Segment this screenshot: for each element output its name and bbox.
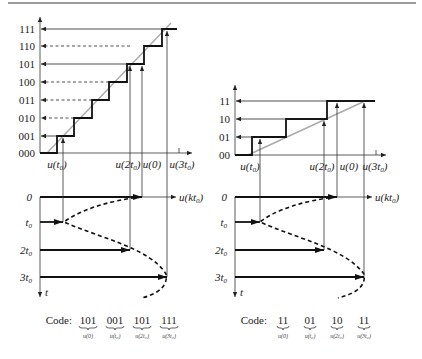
left-x-label: u(t0) (47, 158, 67, 172)
right-code-label: Code: (241, 314, 267, 326)
right-level-label: 10 (219, 113, 231, 125)
left-code-sample-label: u(t₀) (110, 333, 121, 340)
left-time-label: 3t0 (19, 271, 33, 285)
left-underbrace (133, 326, 151, 330)
left-level-label: 100 (19, 76, 36, 88)
left-time-label: t0 (25, 216, 32, 230)
right-code-value: 11 (278, 314, 289, 326)
right-code-sample-label: u(2t₀) (330, 333, 344, 340)
left-code-value: 101 (134, 314, 151, 326)
quantization-diagram: 000001010011100101110111 u(t0)u(2t0)u(0)… (0, 0, 422, 359)
left-level-label: 101 (19, 58, 36, 70)
left-underbrace (79, 326, 97, 330)
left-code-value: 101 (80, 314, 97, 326)
left-level-label: 110 (19, 40, 36, 52)
left-t-axis-label: t (45, 286, 49, 298)
left-level-label: 010 (19, 112, 36, 124)
right-level-label: 01 (219, 131, 230, 143)
left-code-sample-label: u(0) (83, 333, 93, 340)
right-time-plot: 0t02t03t0tu(kt0) (214, 191, 400, 298)
right-diagram-2bit: 00011011 u(t0)u(2t0)u(0)u(3t0) 0t02t03t0… (214, 85, 400, 340)
left-level-label: 011 (19, 94, 35, 106)
left-code-value: 111 (161, 314, 177, 326)
left-level-label: 111 (19, 23, 35, 35)
left-code-label: Code: (46, 314, 72, 326)
right-time-label: 0 (222, 191, 228, 203)
left-code-value: 001 (107, 314, 124, 326)
right-code-value: 11 (359, 314, 370, 326)
right-t-axis-label: t (240, 286, 244, 298)
left-x-label: u(2t0) (116, 158, 141, 172)
right-x-label: u(3t0) (363, 160, 388, 174)
left-level-label: 000 (19, 147, 36, 159)
right-level-label: 11 (219, 95, 230, 107)
right-underbrace (331, 326, 343, 330)
left-level-label: 001 (19, 130, 36, 142)
left-x-label: u(3t0) (170, 158, 195, 172)
right-code-sample-label: u(t₀) (305, 333, 316, 340)
right-x-label: u(0) (340, 160, 359, 173)
left-u-axis-label: u(kt0) (179, 191, 204, 205)
right-u-axis-label: u(kt0) (375, 191, 400, 205)
right-time-label: 2t0 (215, 244, 228, 258)
right-code-value: 01 (305, 314, 316, 326)
right-x-label: u(2t0) (310, 160, 335, 174)
right-code-value: 10 (332, 314, 344, 326)
left-time-plot: 0t02t03t0tu(kt0) (19, 191, 204, 298)
left-underbrace (106, 326, 124, 330)
left-time-label: 2t0 (20, 244, 33, 258)
right-underbrace (304, 326, 316, 330)
left-time-label: 0 (27, 191, 33, 203)
left-code-sample-label: u(2t₀) (135, 333, 149, 340)
left-staircase (40, 29, 177, 153)
right-level-label: 00 (219, 149, 231, 161)
left-x-label: u(0) (143, 158, 162, 171)
left-transfer-plot: 000001010011100101110111 u(t0)u(2t0)u(0)… (19, 17, 195, 172)
right-transfer-plot: 00011011 u(t0)u(2t0)u(0)u(3t0) (219, 85, 388, 174)
right-time-label: t0 (220, 216, 227, 230)
right-code-sample-label: u(3t₀) (357, 333, 371, 340)
right-underbrace (277, 326, 289, 330)
left-diagram-3bit: 000001010011100101110111 u(t0)u(2t0)u(0)… (19, 17, 204, 340)
right-code-sample-label: u(0) (278, 333, 288, 340)
right-x-label: u(t0) (240, 160, 260, 174)
left-underbrace (160, 326, 178, 330)
right-underbrace (358, 326, 370, 330)
right-signal-curve (260, 197, 364, 298)
left-signal-curve (64, 197, 166, 298)
right-ideal-line (248, 101, 365, 155)
right-time-label: 3t0 (214, 271, 228, 285)
left-code-sample-label: u(3t₀) (162, 333, 176, 340)
